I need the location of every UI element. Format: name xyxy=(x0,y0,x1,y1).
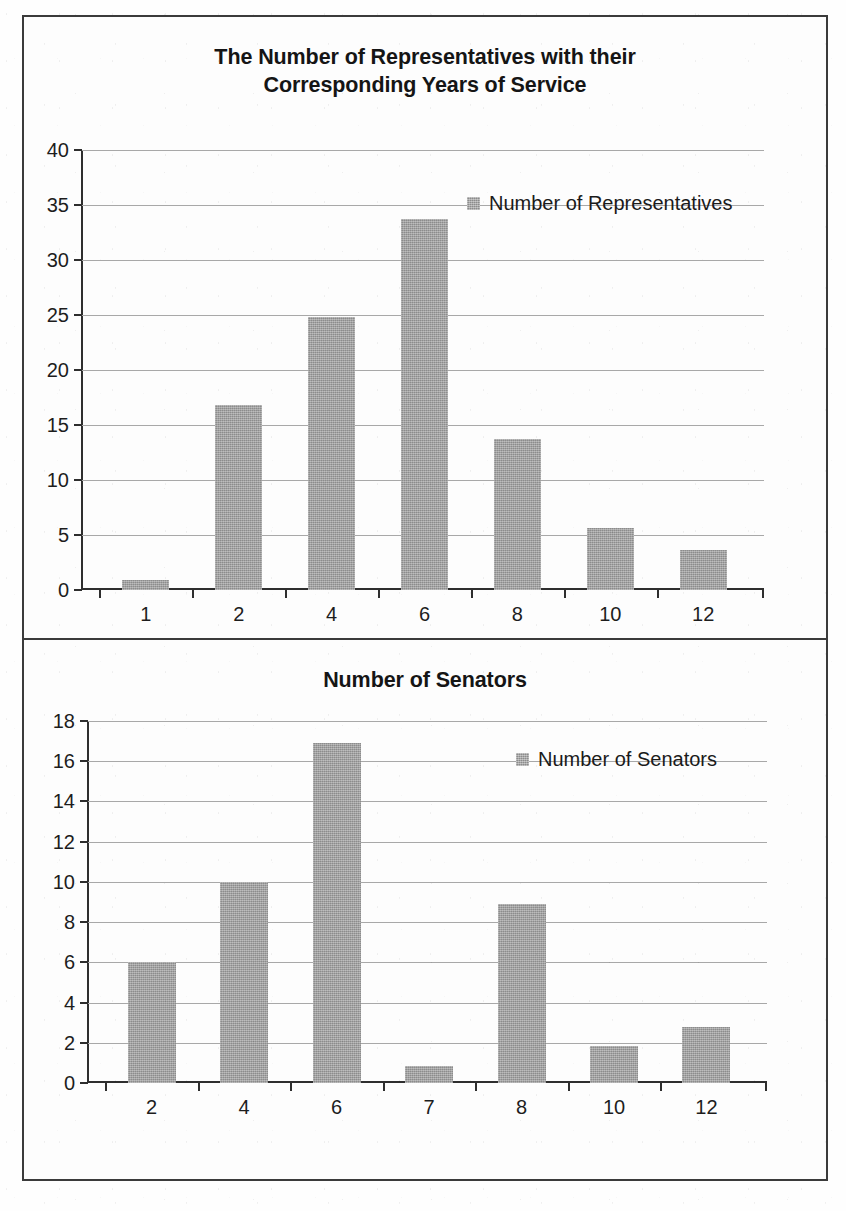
y-axis-senators xyxy=(87,721,89,1083)
x-axis-tick xyxy=(383,1082,385,1091)
bar xyxy=(405,1066,453,1083)
y-axis-label: 15 xyxy=(47,414,69,437)
legend-senators: Number of Senators xyxy=(516,748,717,771)
x-axis-label: 7 xyxy=(423,1096,434,1119)
grid-line xyxy=(81,150,764,151)
x-axis-label: 8 xyxy=(512,603,523,626)
y-axis-tick xyxy=(80,1042,88,1044)
bar xyxy=(313,743,361,1083)
x-axis-tick xyxy=(198,1082,200,1091)
x-axis-tick xyxy=(660,1082,662,1091)
y-axis-tick xyxy=(80,921,88,923)
plot-area-representatives: 0510152025303540124681012 xyxy=(81,150,764,590)
chart-panel-senators: Number of Senators 024681012141618246781… xyxy=(24,640,826,1179)
scanned-page: The Number of Representatives with their… xyxy=(0,0,846,1211)
bar xyxy=(220,882,268,1083)
y-axis-tick xyxy=(80,1082,88,1084)
x-axis-label: 10 xyxy=(599,603,621,626)
x-axis-tick xyxy=(290,1082,292,1091)
y-axis-label: 10 xyxy=(53,870,75,893)
y-axis-label: 30 xyxy=(47,249,69,272)
bar xyxy=(128,962,176,1083)
x-axis-label: 12 xyxy=(692,603,714,626)
y-axis-tick xyxy=(80,881,88,883)
legend-label-representatives: Number of Representatives xyxy=(489,192,732,215)
x-axis-tick xyxy=(657,589,659,598)
y-axis-tick xyxy=(74,369,82,371)
y-axis-label: 6 xyxy=(64,951,75,974)
y-axis-label: 2 xyxy=(64,1031,75,1054)
bar xyxy=(215,405,262,590)
legend-swatch-icon xyxy=(467,197,480,210)
y-axis-label: 4 xyxy=(64,991,75,1014)
x-axis-label: 8 xyxy=(516,1096,527,1119)
y-axis-label: 35 xyxy=(47,194,69,217)
x-axis-label: 2 xyxy=(146,1096,157,1119)
grid-line xyxy=(87,1003,767,1004)
y-axis-tick xyxy=(74,479,82,481)
x-axis-label: 4 xyxy=(239,1096,250,1119)
x-axis-label: 6 xyxy=(331,1096,342,1119)
x-axis-tick xyxy=(285,589,287,598)
bar xyxy=(498,904,546,1083)
x-axis-tick xyxy=(378,589,380,598)
grid-line xyxy=(87,962,767,963)
y-axis-label: 0 xyxy=(64,1072,75,1095)
bar xyxy=(680,550,727,590)
x-axis-tick xyxy=(564,589,566,598)
chart-panel-representatives: The Number of Representatives with their… xyxy=(24,17,826,638)
legend-label-senators: Number of Senators xyxy=(538,748,717,771)
y-axis-label: 40 xyxy=(47,139,69,162)
y-axis-tick xyxy=(80,961,88,963)
x-axis-label: 4 xyxy=(326,603,337,626)
grid-line xyxy=(87,922,767,923)
y-axis-label: 8 xyxy=(64,911,75,934)
x-axis-label: 6 xyxy=(419,603,430,626)
y-axis-tick xyxy=(80,1002,88,1004)
y-axis-tick xyxy=(74,424,82,426)
x-axis-label: 2 xyxy=(233,603,244,626)
y-axis-label: 18 xyxy=(53,710,75,733)
x-axis-tick xyxy=(765,1082,767,1091)
x-axis-tick xyxy=(568,1082,570,1091)
bar xyxy=(587,528,634,590)
y-axis-label: 5 xyxy=(58,524,69,547)
x-axis-tick xyxy=(762,589,764,598)
x-axis-label: 10 xyxy=(603,1096,625,1119)
grid-line xyxy=(87,882,767,883)
y-axis-tick xyxy=(74,149,82,151)
y-axis-label: 12 xyxy=(53,830,75,853)
bar xyxy=(401,219,448,590)
bar xyxy=(308,317,355,590)
y-axis-label: 0 xyxy=(58,579,69,602)
y-axis-label: 10 xyxy=(47,469,69,492)
y-axis-tick xyxy=(74,534,82,536)
y-axis-tick xyxy=(80,720,88,722)
x-axis-label: 12 xyxy=(695,1096,717,1119)
grid-line xyxy=(87,1043,767,1044)
y-axis-tick xyxy=(80,760,88,762)
bar xyxy=(494,439,541,590)
bar xyxy=(682,1027,730,1083)
legend-representatives: Number of Representatives xyxy=(467,192,732,215)
bar xyxy=(590,1046,638,1083)
y-axis-label: 16 xyxy=(53,750,75,773)
grid-line xyxy=(87,801,767,802)
y-axis-tick xyxy=(80,800,88,802)
bar xyxy=(122,580,169,590)
x-axis-tick xyxy=(471,589,473,598)
chart-title-senators: Number of Senators xyxy=(24,666,826,694)
x-axis-tick xyxy=(475,1082,477,1091)
y-axis-label: 14 xyxy=(53,790,75,813)
y-axis-tick xyxy=(74,314,82,316)
x-axis-label: 1 xyxy=(140,603,151,626)
chart-title-representatives: The Number of Representatives with their… xyxy=(24,43,826,100)
grid-line xyxy=(87,842,767,843)
y-axis-tick xyxy=(74,259,82,261)
legend-swatch-icon xyxy=(516,753,529,766)
plot-area-senators: 024681012141618246781012 xyxy=(87,721,767,1083)
y-axis-tick xyxy=(74,204,82,206)
x-axis-tick xyxy=(192,589,194,598)
y-axis-tick xyxy=(80,841,88,843)
y-axis-label: 20 xyxy=(47,359,69,382)
